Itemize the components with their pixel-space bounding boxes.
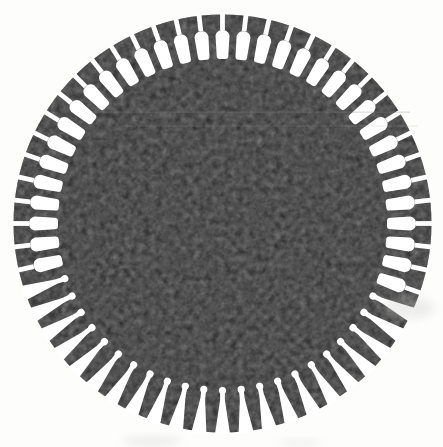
scan-streak-artifact	[92, 112, 410, 113]
scan-smudge-artifact	[122, 437, 182, 445]
scan-streak-artifact	[120, 126, 418, 127]
figure-canvas	[0, 0, 443, 447]
scan-smudge-artifact	[382, 297, 434, 319]
lamination-figure-svg	[0, 0, 443, 447]
scan-smudge-artifact	[278, 440, 322, 446]
scan-grain-overlay	[14, 15, 432, 433]
